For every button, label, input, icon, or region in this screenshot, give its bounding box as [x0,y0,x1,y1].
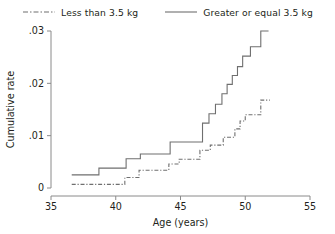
y-tick-label: .02 [29,78,44,89]
x-tick-label: 35 [45,201,57,212]
x-tick-label: 40 [110,201,122,212]
x-tick-label: 55 [304,201,316,212]
cumulative-rate-chart-figure: Less than 3.5 kg Greater or equal 3.5 kg… [0,0,335,234]
x-axis: 3540455055 Age (years) [45,196,316,228]
series-lines [72,31,270,184]
x-axis-title: Age (years) [153,217,209,228]
chart-plot-area: 0.01.02.03 Cumulative rate 3540455055 Ag… [0,0,335,234]
x-tick-label: 45 [174,201,186,212]
y-axis: 0.01.02.03 Cumulative rate [5,25,51,193]
y-tick-label: .01 [29,130,44,141]
x-tick-label: 50 [239,201,251,212]
y-tick-label: .03 [29,25,44,36]
series-line-greater-equal [72,31,269,175]
y-tick-label: 0 [38,182,44,193]
y-axis-title: Cumulative rate [5,71,16,148]
